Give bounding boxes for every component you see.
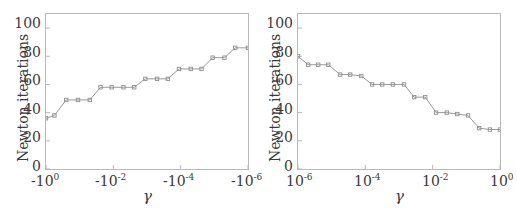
xtick-exponent: -6 xyxy=(304,172,313,182)
xtick-label: 10-4 xyxy=(354,174,381,188)
xtick-exponent: 0 xyxy=(508,172,514,182)
xtick-mantissa: 10 xyxy=(422,173,440,189)
series-line xyxy=(298,56,500,129)
xtick-mantissa: -10 xyxy=(31,173,54,189)
xtick-exponent: -4 xyxy=(186,172,195,182)
figure-root: 0 20 40 60 80 100 Newton iterations -100… xyxy=(0,0,517,208)
data-line-right xyxy=(298,14,500,169)
xtick-exponent: -2 xyxy=(440,172,449,182)
xtick-mantissa: -10 xyxy=(163,173,186,189)
xtick-label: -10-2 xyxy=(95,174,126,188)
series-line xyxy=(46,48,248,118)
xtick-label: -10-4 xyxy=(163,174,194,188)
y-axis-label: Newton iterations xyxy=(268,34,282,162)
chart-panel-right: 0 20 40 60 80 100 Newton iterations 10-6… xyxy=(255,0,513,208)
xtick-mantissa: 10 xyxy=(354,173,372,189)
xtick-label: -100 xyxy=(31,174,59,188)
xtick-mantissa: 10 xyxy=(286,173,304,189)
xtick-exponent: -2 xyxy=(118,172,127,182)
ytick-label: 100 xyxy=(257,16,293,30)
data-line-left xyxy=(46,14,248,169)
x-axis-label: γ xyxy=(395,189,404,204)
xtick-mantissa: -10 xyxy=(231,173,254,189)
xtick-label: 10-2 xyxy=(422,174,449,188)
ytick-label: 100 xyxy=(5,16,41,30)
y-axis-label: Newton iterations xyxy=(16,34,30,162)
plot-area-left xyxy=(45,13,249,170)
xtick-mantissa: -10 xyxy=(95,173,118,189)
plot-area-right xyxy=(297,13,501,170)
xtick-label: 100 xyxy=(490,174,514,188)
chart-panel-left: 0 20 40 60 80 100 Newton iterations -100… xyxy=(0,0,258,208)
x-axis-label: γ xyxy=(143,189,152,204)
xtick-mantissa: 10 xyxy=(490,173,508,189)
xtick-label: 10-6 xyxy=(286,174,313,188)
xtick-exponent: 0 xyxy=(54,172,60,182)
xtick-exponent: -4 xyxy=(372,172,381,182)
